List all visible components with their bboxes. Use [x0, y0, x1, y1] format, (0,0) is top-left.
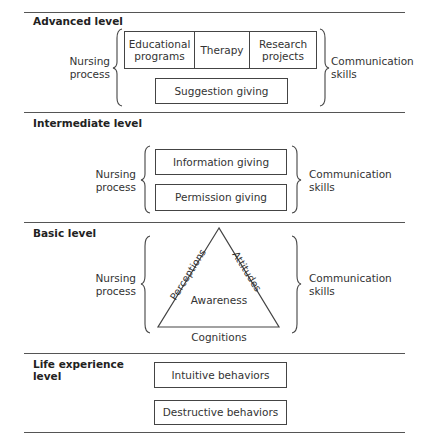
box-text: programs — [129, 50, 191, 63]
box-text: Educational — [129, 38, 191, 51]
label-line: Nursing — [84, 168, 136, 181]
label-nursing-process-basic: Nursing process — [84, 272, 136, 297]
brace-left-basic — [141, 236, 150, 333]
triangle-label-cognitions: Cognitions — [189, 331, 249, 343]
awareness-triangle — [158, 228, 279, 327]
label-line: Communication — [309, 272, 392, 285]
box-educational-programs: Educational programs — [125, 32, 194, 68]
heading-line: Life experience — [33, 358, 124, 370]
box-intuitive-behaviors: Intuitive behaviors — [154, 362, 287, 388]
label-line: process — [84, 285, 136, 298]
advanced-activities-row: Educational programs Therapy Research pr… — [124, 31, 317, 69]
label-communication-skills-basic: Communication skills — [309, 272, 392, 297]
label-line: skills — [309, 181, 392, 194]
label-line: Communication — [309, 168, 392, 181]
brace-left-intermediate — [141, 146, 150, 213]
box-information-giving: Information giving — [155, 149, 287, 175]
label-line: skills — [331, 68, 414, 81]
brace-right-basic — [292, 236, 301, 333]
heading-basic-level: Basic level — [33, 227, 96, 239]
box-research-projects: Research projects — [249, 32, 316, 68]
box-text: Research — [259, 38, 307, 51]
label-communication-skills-intermediate: Communication skills — [309, 168, 392, 193]
box-permission-giving: Permission giving — [155, 184, 287, 211]
triangle-label-awareness: Awareness — [189, 294, 249, 306]
brace-right-advanced — [320, 29, 329, 106]
label-nursing-process-advanced: Nursing process — [58, 55, 110, 80]
box-therapy: Therapy — [194, 32, 249, 68]
label-line: skills — [309, 285, 392, 298]
brace-left-advanced — [113, 29, 122, 106]
label-communication-skills-advanced: Communication skills — [331, 55, 414, 80]
heading-intermediate-level: Intermediate level — [33, 117, 142, 129]
heading-line: level — [33, 370, 124, 382]
box-destructive-behaviors: Destructive behaviors — [154, 400, 287, 425]
box-text: projects — [259, 50, 307, 63]
label-line: process — [58, 68, 110, 81]
brace-right-intermediate — [292, 146, 301, 213]
label-line: Nursing — [84, 272, 136, 285]
box-text: Therapy — [200, 44, 243, 57]
label-line: process — [84, 181, 136, 194]
box-suggestion-giving: Suggestion giving — [155, 78, 288, 104]
label-nursing-process-intermediate: Nursing process — [84, 168, 136, 193]
heading-life-experience-level: Life experience level — [33, 358, 124, 382]
label-line: Communication — [331, 55, 414, 68]
heading-advanced-level: Advanced level — [33, 15, 123, 27]
label-line: Nursing — [58, 55, 110, 68]
